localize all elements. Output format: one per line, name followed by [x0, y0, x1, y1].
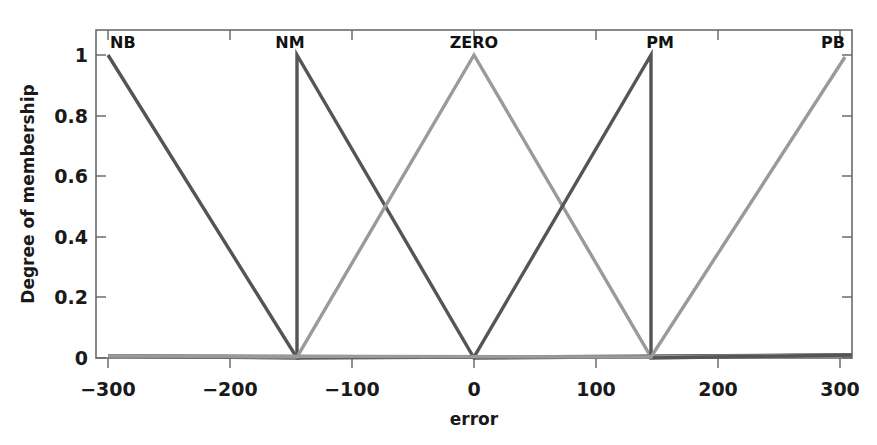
set-label-pm: PM — [646, 33, 674, 52]
x-axis-ticks — [108, 30, 840, 368]
y-tick-label-1: 1 — [75, 44, 88, 66]
x-axis-title: error — [450, 409, 499, 429]
x-tick-label--100: −100 — [324, 378, 380, 400]
mf-curve-nm — [108, 55, 852, 358]
x-tick-label-200: 200 — [698, 378, 738, 400]
y-axis-title: Degree of membership — [18, 84, 38, 303]
set-label-nb: NB — [110, 33, 136, 52]
y-tick-label-0.8: 0.8 — [54, 105, 88, 127]
x-tick-label-300: 300 — [820, 378, 860, 400]
mf-curve-nb — [108, 55, 852, 358]
y-axis-ticks — [96, 55, 852, 358]
y-tick-label-0: 0 — [75, 347, 88, 369]
x-tick-label--200: −200 — [202, 378, 258, 400]
y-tick-label-0.2: 0.2 — [54, 286, 88, 308]
mf-curve-pm — [108, 55, 852, 358]
mf-curve-zero — [108, 55, 852, 357]
set-label-zero: ZERO — [450, 33, 498, 52]
x-tick-label--300: −300 — [80, 378, 136, 400]
membership-curves — [108, 55, 852, 358]
membership-chart-svg: NB NM ZERO PM PB 1 0.8 0.4 0.6 0.2 0 −30… — [0, 0, 877, 445]
set-label-pb: PB — [821, 33, 845, 52]
mf-curve-pb — [108, 57, 845, 357]
x-tick-label-100: 100 — [576, 378, 616, 400]
plot-frame — [96, 30, 852, 358]
y-tick-label-0.6: 0.6 — [54, 165, 88, 187]
set-label-nm: NM — [275, 33, 304, 52]
membership-function-figure: NB NM ZERO PM PB 1 0.8 0.4 0.6 0.2 0 −30… — [0, 0, 877, 445]
x-tick-label-0: 0 — [467, 378, 480, 400]
y-tick-label-0.4: 0.4 — [54, 226, 88, 248]
